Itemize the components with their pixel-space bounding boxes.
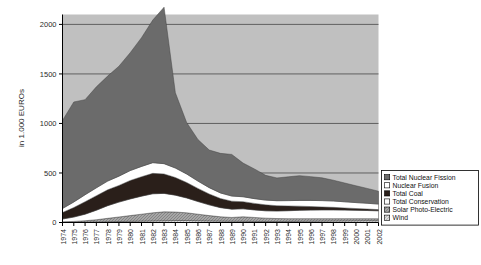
legend-label: Solar Photo-Electric	[393, 206, 454, 213]
x-tick-label: 1976	[82, 229, 89, 245]
legend-swatch	[385, 183, 390, 188]
x-tick-label: 1983	[161, 229, 168, 245]
x-tick-label: 1993	[274, 229, 281, 245]
stacked-area-chart: 0500100015002000 19741975197619771978197…	[0, 0, 481, 265]
legend-swatch	[385, 191, 390, 196]
x-tick-label: 1991	[251, 229, 258, 245]
x-tick-label: 1982	[150, 229, 157, 245]
legend-label: Nuclear Fusion	[393, 182, 439, 189]
y-tick-label: 0	[52, 218, 56, 227]
x-tick-label: 1981	[139, 229, 146, 245]
x-tick-label: 1995	[297, 229, 304, 245]
x-tick-label: 1986	[195, 229, 202, 245]
legend-label: Total Coal	[393, 190, 424, 197]
x-tick-label: 1987	[206, 229, 213, 245]
x-tick-label: 1984	[172, 229, 179, 245]
x-tick-label: 1990	[240, 229, 247, 245]
y-tick-label: 500	[44, 169, 57, 178]
x-tick-label: 1992	[263, 229, 270, 245]
x-tick-label: 1989	[229, 229, 236, 245]
chart-legend: Total Nuclear FissionNuclear FusionTotal…	[382, 171, 479, 226]
legend-swatch	[385, 175, 390, 180]
y-tick-label: 1000	[40, 119, 57, 128]
x-tick-label: 1998	[330, 229, 337, 245]
x-tick-label: 1988	[218, 229, 225, 245]
x-tick-label: 1996	[308, 229, 315, 245]
x-tick-label: 1985	[184, 229, 191, 245]
x-tick-label: 2002	[376, 229, 383, 245]
y-tick-label: 1500	[40, 70, 57, 79]
x-tick-label: 1974	[60, 229, 67, 245]
x-tick-label: 1980	[127, 229, 134, 245]
x-tick-label: 1979	[116, 229, 123, 245]
legend-label: Total Conservation	[393, 198, 450, 205]
legend-label: Total Nuclear Fission	[393, 174, 456, 181]
x-tick-label: 1975	[71, 229, 78, 245]
x-tick-label: 1978	[105, 229, 112, 245]
y-axis-title: in 1.000 EUROs	[17, 89, 26, 147]
x-tick-label: 1999	[342, 229, 349, 245]
x-tick-label: 2001	[364, 229, 371, 245]
x-tick-label: 2000	[353, 229, 360, 245]
legend-label: Wind	[393, 214, 409, 221]
x-tick-label: 1977	[93, 229, 100, 245]
chart-canvas: 0500100015002000 19741975197619771978197…	[0, 0, 481, 265]
legend-swatch	[385, 215, 390, 220]
x-tick-label: 1994	[285, 229, 292, 245]
legend-swatch	[385, 207, 390, 212]
y-tick-label: 2000	[40, 20, 57, 29]
x-tick-label: 1997	[319, 229, 326, 245]
legend-swatch	[385, 199, 390, 204]
